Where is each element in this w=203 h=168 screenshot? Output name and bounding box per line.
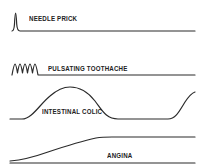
needle-prick-label: NEEDLE PRICK [29, 15, 77, 22]
angina-label: ANGINA [107, 152, 133, 159]
pulsating-toothache-label: PULSATING TOOTHACHE [48, 65, 128, 72]
intestinal-colic-curve [10, 87, 195, 119]
pain-curves [0, 0, 203, 168]
pain-pattern-diagram: NEEDLE PRICK PULSATING TOOTHACHE INTESTI… [0, 0, 203, 168]
angina-curve [10, 137, 195, 161]
intestinal-colic-label: INTESTINAL COLIC [42, 108, 102, 115]
